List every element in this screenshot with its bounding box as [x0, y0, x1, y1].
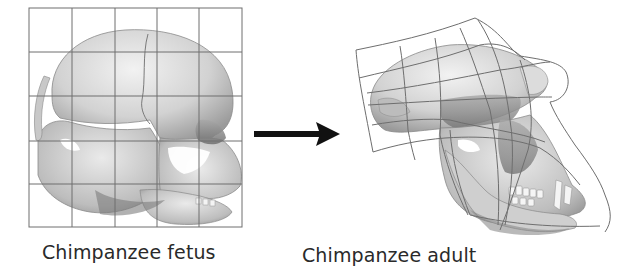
transformation-arrow-icon	[254, 122, 340, 146]
transformation-figure: Chimpanzee fetus Chimpanzee adult	[0, 0, 633, 280]
fetus-skull-illustration	[34, 30, 241, 225]
adult-caption: Chimpanzee adult	[302, 244, 476, 266]
fetus-caption: Chimpanzee fetus	[42, 241, 216, 263]
